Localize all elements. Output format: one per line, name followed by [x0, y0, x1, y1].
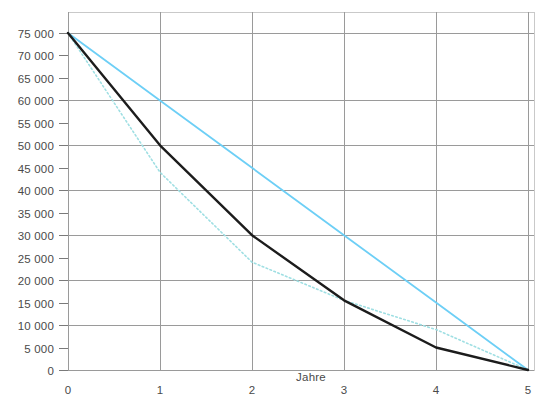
y-tick-label: 50 000 [18, 140, 54, 152]
y-tick-label: 60 000 [18, 95, 54, 107]
y-tick-label: 20 000 [18, 275, 54, 287]
y-tick-label: 35 000 [18, 208, 54, 220]
x-tick-label: 4 [433, 384, 440, 396]
chart-background [0, 0, 541, 403]
y-tick-label: 15 000 [18, 298, 54, 310]
y-tick-label: 40 000 [18, 185, 54, 197]
y-tick-label: 75 000 [18, 28, 54, 40]
y-tick-label: 30 000 [18, 230, 54, 242]
y-tick-label: 0 [47, 365, 54, 377]
y-tick-label: 45 000 [18, 163, 54, 175]
x-tick-label: 5 [525, 384, 532, 396]
y-tick-label: 25 000 [18, 253, 54, 265]
chart-plot: 75 00070 00065 00060 00055 00050 00045 0… [0, 0, 541, 403]
y-tick-label: 5 000 [24, 343, 54, 355]
y-tick-label: 10 000 [18, 320, 54, 332]
x-tick-label: 1 [157, 384, 164, 396]
y-tick-label: 70 000 [18, 50, 54, 62]
x-axis-title: Jahre [296, 371, 326, 383]
y-tick-label: 55 000 [18, 118, 54, 130]
x-tick-label: 3 [341, 384, 348, 396]
chart-container: 75 00070 00065 00060 00055 00050 00045 0… [0, 0, 541, 403]
x-tick-label: 0 [65, 384, 72, 396]
x-tick-label: 2 [249, 384, 256, 396]
y-tick-label: 65 000 [18, 73, 54, 85]
